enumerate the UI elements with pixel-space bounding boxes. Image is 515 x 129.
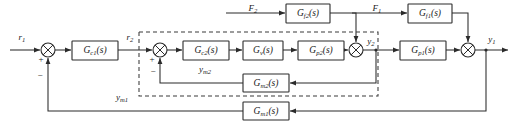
node-y2-tap xyxy=(374,48,377,51)
block-gm1-sub: m1 xyxy=(260,109,268,116)
node-y1-tap xyxy=(484,48,487,51)
svg-text:Gf1(s): Gf1(s) xyxy=(419,8,441,19)
block-gc2-tail: (s) xyxy=(208,45,218,56)
block-gp1-sub: p1 xyxy=(417,49,425,56)
block-diagram-canvas: Gc1(s) Gc2(s) Gv(s) Gp2(s) Gp1(s) xyxy=(0,0,515,129)
wire-gf1-to-sum4 xyxy=(452,13,468,42)
signal-label-f2: F2 xyxy=(248,3,259,13)
wire-gm1-to-sum1 xyxy=(48,58,243,111)
summer-sum4 xyxy=(461,43,475,57)
signal-label-r2: r2 xyxy=(127,32,135,42)
signal-label-ym1: ym1 xyxy=(115,92,128,102)
signal-label-y2: y2 xyxy=(366,36,375,46)
block-gm2-tail: (s) xyxy=(268,78,278,89)
signal-label-r1: r1 xyxy=(19,32,26,42)
block-gf2[interactable]: Gf2(s) xyxy=(286,4,330,23)
block-gc2[interactable]: Gc2(s) xyxy=(183,41,229,60)
block-gf1[interactable]: Gf1(s) xyxy=(408,4,452,23)
signal-label-ym2: ym2 xyxy=(198,64,212,74)
svg-text:Gf2(s): Gf2(s) xyxy=(297,8,319,19)
block-gm1-tail: (s) xyxy=(268,106,278,117)
svg-text:Gv(s): Gv(s) xyxy=(253,45,273,56)
block-gf2-tail: (s) xyxy=(309,8,319,19)
block-gp2[interactable]: Gp2(s) xyxy=(298,41,344,60)
signal-label-f1: F1 xyxy=(372,3,382,13)
sign-sum1-minus: − xyxy=(37,70,42,80)
block-gp1[interactable]: Gp1(s) xyxy=(400,41,446,60)
block-gf1-tail: (s) xyxy=(431,8,441,19)
block-gm2[interactable]: Gm2(s) xyxy=(243,74,289,92)
block-gc1-tail: (s) xyxy=(97,45,107,56)
summer-sum3 xyxy=(349,43,363,57)
sign-sum2-plus: + xyxy=(149,54,154,64)
summer-sum2 xyxy=(153,43,167,57)
block-gv-tail: (s) xyxy=(263,45,273,56)
block-gm1[interactable]: Gm1(s) xyxy=(243,102,289,120)
block-gp2-tail: (s) xyxy=(323,45,333,56)
block-gv[interactable]: Gv(s) xyxy=(243,41,283,60)
sign-sum1-plus: + xyxy=(38,54,43,64)
block-gc1[interactable]: Gc1(s) xyxy=(72,41,118,60)
block-gp1-tail: (s) xyxy=(425,45,435,56)
wire-gf2-to-sum3 xyxy=(330,13,356,42)
signal-label-y1: y1 xyxy=(487,34,495,44)
sign-sum2-minus: − xyxy=(150,66,155,76)
